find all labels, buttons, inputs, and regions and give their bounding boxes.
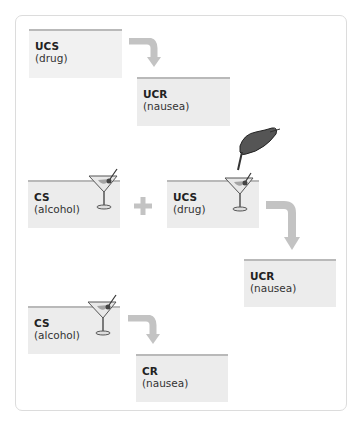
stage2-ucr-sub: (nausea) bbox=[250, 282, 296, 294]
stage1-ucs-box: UCS (drug) bbox=[29, 29, 122, 78]
stage2-ucs-label: UCS bbox=[173, 191, 197, 203]
plus-icon bbox=[134, 197, 152, 215]
elbow-arrow-icon bbox=[129, 38, 165, 70]
stage1-ucs-label: UCS bbox=[35, 40, 59, 52]
stage1-ucr-box: UCR (nausea) bbox=[137, 77, 230, 126]
stage3-cs-sub: (alcohol) bbox=[34, 329, 80, 341]
stage3-cr-box: CR (nausea) bbox=[136, 354, 228, 402]
martini-glass-icon bbox=[86, 168, 122, 212]
stage2-cs-label: CS bbox=[34, 191, 49, 203]
stage1-ucs-sub: (drug) bbox=[35, 52, 68, 64]
martini-glass-icon bbox=[222, 170, 258, 214]
stage1-ucr-sub: (nausea) bbox=[143, 100, 189, 112]
stage2-ucr-label: UCR bbox=[250, 270, 274, 282]
stage3-cr-label: CR bbox=[142, 365, 158, 377]
stage3-cs-label: CS bbox=[34, 317, 49, 329]
elbow-arrow-icon bbox=[128, 315, 164, 347]
stage2-cs-sub: (alcohol) bbox=[34, 203, 80, 215]
stage2-ucr-box: UCR (nausea) bbox=[244, 259, 336, 307]
stage2-ucs-sub: (drug) bbox=[173, 203, 206, 215]
hand-dropping-drug-icon bbox=[230, 126, 282, 174]
martini-glass-icon bbox=[85, 294, 121, 338]
elbow-arrow-down-icon bbox=[266, 200, 306, 252]
stage3-cr-sub: (nausea) bbox=[142, 377, 188, 389]
stage1-ucr-label: UCR bbox=[143, 88, 167, 100]
